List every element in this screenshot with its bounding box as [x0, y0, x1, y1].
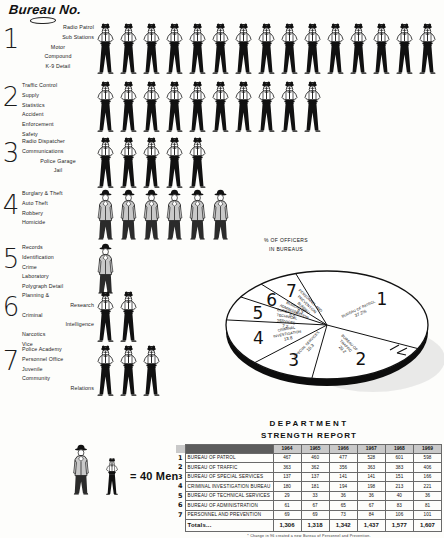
- table-cell-value: 40: [385, 491, 413, 501]
- table-cell-value: 198: [357, 482, 385, 492]
- table-cell-value: 106: [385, 510, 413, 520]
- officer-figure-icon: [140, 80, 163, 132]
- table-bureau-name: BUREAU OF SPECIAL SERVICES: [185, 472, 273, 482]
- bureau-label: Motor: [22, 43, 94, 53]
- table-row: 6BUREAU OF ADMINISTRATION616765678381: [176, 501, 442, 511]
- table-total-value: 1,607: [413, 520, 441, 532]
- officer-figure-icon: [416, 22, 439, 74]
- table-cell-value: 69: [273, 510, 301, 520]
- table-title-line-1: DEPARTMENT: [176, 418, 442, 430]
- table-cell-value: 36: [357, 491, 385, 501]
- officer-figure-icon: [301, 80, 324, 132]
- strength-report-table: 196419651966196719681969 1BUREAU OF PATR…: [176, 444, 442, 532]
- table-cell-value: 137: [301, 472, 329, 482]
- table-body: 1BUREAU OF PATROL4674604775286015982BURE…: [176, 453, 442, 531]
- table-row: 2BUREAU OF TRAFFIC363362356363383406: [176, 463, 442, 473]
- bureau-label: Sub Stations: [22, 33, 94, 43]
- bureau-label: Enforcement: [22, 120, 94, 130]
- bureau-label: Communications: [22, 147, 94, 157]
- table-cell-value: 61: [273, 501, 301, 511]
- bureau-label: Identification: [22, 253, 94, 263]
- table-cell-value: 33: [301, 491, 329, 501]
- table-row-number: 6: [176, 501, 185, 511]
- table-cell-value: 181: [301, 482, 329, 492]
- table-year-header: 1968: [385, 445, 413, 454]
- officer-figure-icon: [232, 22, 255, 74]
- table-totals-label: Totals...: [185, 520, 273, 532]
- pie-slice-number: 4: [253, 328, 264, 348]
- table-cell-value: 598: [413, 453, 441, 463]
- table-cell-value: 460: [301, 453, 329, 463]
- officer-figure-icon: [94, 290, 117, 342]
- bureau-number-7: 7: [0, 342, 22, 374]
- legend-officer-icon: [98, 457, 126, 495]
- bureau-label: Relations: [22, 384, 94, 394]
- bureau-number-2: 2: [0, 78, 22, 110]
- bureau-labels-2: Traffic ControlSupplyStatisticsAccidentE…: [22, 78, 94, 140]
- table-row-number: 1: [176, 453, 185, 463]
- officer-figure-icon: [117, 344, 140, 396]
- bureau-number-5: 5: [0, 240, 22, 272]
- table-total-value: 1,342: [329, 520, 357, 532]
- pie-chart: % OF OFFICERS IN BUREAUS 1BUREAU OF PATR…: [205, 232, 444, 412]
- bureau-label: Robbery: [22, 209, 94, 219]
- officer-figure-icon: [163, 22, 186, 74]
- table-row-number: 2: [176, 463, 185, 473]
- officer-figure-icon: [255, 22, 278, 74]
- legend: = 40 Men: [62, 443, 192, 495]
- pie-slice-number: 2: [355, 349, 366, 369]
- officer-figure-icon: [94, 22, 117, 74]
- detective-figure-icon: [140, 188, 163, 240]
- table-cell-value: 406: [413, 463, 441, 473]
- bureau-label: K-9 Detail: [22, 62, 94, 72]
- table-bureau-name: CRIMINAL INVESTIGATION BUREAU: [185, 482, 273, 492]
- bureau-label: Homicide: [22, 218, 94, 228]
- bureau-label: Auto Theft: [22, 199, 94, 209]
- legend-detective-icon: [62, 443, 100, 495]
- table-cell-value: 67: [301, 501, 329, 511]
- table-totals-spacer: [176, 520, 185, 532]
- officer-figure-icon: [324, 22, 347, 74]
- bureau-label: Narcotics: [22, 330, 94, 340]
- bureau-label: Personnel Office: [22, 355, 94, 365]
- table-cell-value: 477: [329, 453, 357, 463]
- table-year-header: 1967: [357, 445, 385, 454]
- table-bureau-name: BUREAU OF TRAFFIC: [185, 463, 273, 473]
- table-totals-row: Totals...1,3061,3181,3421,4371,5771,607: [176, 520, 442, 532]
- table-rownum-spacer: [176, 445, 185, 454]
- officer-figure-icon: [347, 22, 370, 74]
- officer-figure-icon: [209, 22, 232, 74]
- officer-figure-icon: [255, 80, 278, 132]
- bureau-label: Juvenile: [22, 365, 94, 375]
- table-bureau-name: BUREAU OF ADMINISTRATION: [185, 501, 273, 511]
- table-cell-value: 601: [385, 453, 413, 463]
- pie-slice-number: 7: [286, 281, 297, 301]
- table-year-header: 1965: [301, 445, 329, 454]
- bureau-labels-3: Radio DispatcherCommunicationsPolice Gar…: [22, 134, 94, 176]
- pie-slice-number: 5: [253, 303, 264, 323]
- table-cell-value: 36: [329, 491, 357, 501]
- bureau-labels-5: RecordsIdentificationCrimeLaboratoryPoly…: [22, 240, 94, 292]
- table-total-value: 1,318: [301, 520, 329, 532]
- table-total-value: 1,577: [385, 520, 413, 532]
- bureau-label: Research: [22, 301, 94, 311]
- officer-figure-icon: [186, 136, 209, 188]
- table-cell-value: 363: [273, 463, 301, 473]
- bureau-label: Records: [22, 243, 94, 253]
- bureau-number-3: 3: [0, 134, 22, 166]
- table-cell-value: 528: [357, 453, 385, 463]
- officer-figure-icon: [209, 80, 232, 132]
- table-row: 3BUREAU OF SPECIAL SERVICES1371371411411…: [176, 472, 442, 482]
- bureau-label: Compound: [22, 52, 94, 62]
- table-header-row: 196419651966196719681969: [176, 445, 442, 454]
- bureau-label: Community: [22, 374, 94, 384]
- officer-figure-icon: [140, 136, 163, 188]
- bureau-label: Laboratory: [22, 272, 94, 282]
- bureau-label: Police Academy: [22, 345, 94, 355]
- table-cell-value: 362: [301, 463, 329, 473]
- table-title: DEPARTMENT STRENGTH REPORT: [176, 418, 442, 441]
- table-cell-value: 151: [385, 472, 413, 482]
- officer-figure-icon: [163, 80, 186, 132]
- bureau-number-6: 6: [0, 288, 22, 320]
- table-cell-value: 467: [273, 453, 301, 463]
